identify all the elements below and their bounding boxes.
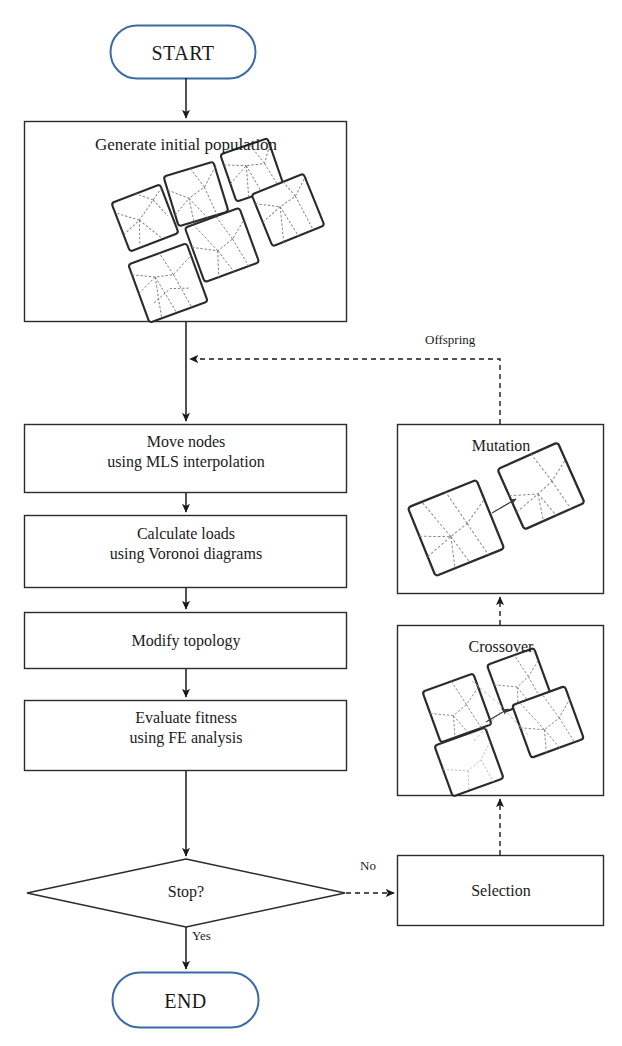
- stop-decision-shape: [27, 859, 345, 927]
- start-terminal-shape: [111, 26, 256, 79]
- modify-topology-box: [25, 613, 347, 669]
- flowchart-graphics: [0, 0, 622, 1046]
- connector-mutation-offspring-feedback: [190, 359, 500, 424]
- flowchart-canvas: START Generate initial population Move n…: [0, 0, 622, 1046]
- end-terminal-shape: [113, 973, 259, 1028]
- selection-box: [398, 856, 604, 926]
- evaluate-fitness-box: [25, 701, 347, 771]
- move-nodes-box: [25, 425, 347, 493]
- calculate-loads-box: [25, 516, 347, 588]
